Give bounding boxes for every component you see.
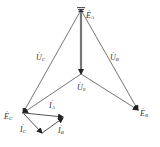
phasor-ia xyxy=(24,113,63,117)
label-ea: ·EA xyxy=(86,12,94,20)
phasor-n-eb xyxy=(81,74,138,110)
label-ec: ·EC xyxy=(4,113,12,121)
source-symbol xyxy=(77,7,85,8)
label-ub: ·UB xyxy=(110,54,119,62)
label-u0: ·U0 xyxy=(77,84,85,92)
label-ia: ·IA xyxy=(49,102,55,110)
label-ic: ·IC xyxy=(20,126,26,134)
label-uc: ·UC xyxy=(36,54,45,62)
phasor-ic xyxy=(24,114,42,133)
label-eb: ·EB xyxy=(140,110,148,118)
label-ib: ·IB xyxy=(58,127,64,135)
